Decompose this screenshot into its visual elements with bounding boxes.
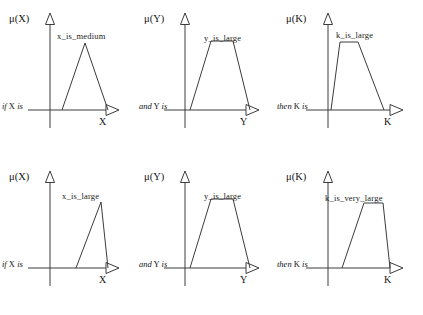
- panel-rule-1-antecedent-x: μ(X) X x_is_medium if X is: [0, 0, 141, 155]
- connective-var: X: [9, 259, 15, 269]
- connective-post: is: [302, 101, 308, 111]
- rule-connective: and Y is: [139, 101, 167, 111]
- rule-connective: and Y is: [139, 259, 167, 269]
- rule-connective: if X is: [2, 259, 23, 269]
- k-axis-name: K: [384, 116, 391, 127]
- rule-connective: then K is: [277, 101, 308, 111]
- connective-post: is: [162, 101, 168, 111]
- membership-set-label: x_is_medium: [57, 31, 105, 41]
- connective-var: Y: [154, 259, 160, 269]
- membership-set-label: k_is_large: [336, 30, 373, 40]
- connective-post: is: [17, 259, 23, 269]
- connective-pre: then: [277, 259, 292, 269]
- connective-post: is: [162, 259, 168, 269]
- connective-pre: and: [139, 259, 152, 269]
- panel-rule-1-antecedent-y: μ(Y) Y y_is_large and Y is: [140, 0, 281, 155]
- x-axis-name: X: [99, 274, 106, 285]
- y-axis-name: Y: [240, 116, 247, 127]
- k-axis-name: K: [384, 274, 391, 285]
- connective-var: X: [9, 101, 15, 111]
- mu-axis-label: μ(Y): [144, 13, 164, 24]
- rule-connective: then K is: [277, 259, 308, 269]
- x-axis-name: X: [99, 116, 106, 127]
- membership-set-label: y_is_large: [204, 191, 241, 201]
- membership-set-label: x_is_large: [62, 191, 99, 201]
- mu-axis-label: μ(K): [286, 171, 306, 182]
- panel-rule-2-consequent-k: μ(K) K k_is_very_large then K is: [280, 158, 421, 313]
- connective-pre: if: [2, 259, 7, 269]
- connective-var: Y: [154, 101, 160, 111]
- panel-rule-2-antecedent-y: μ(Y) Y y_is_large and Y is: [140, 158, 281, 313]
- mu-axis-label: μ(X): [9, 13, 29, 24]
- panel-rule-1-consequent-k: μ(K) K k_is_large then K is: [280, 0, 421, 155]
- y-axis-name: Y: [240, 274, 247, 285]
- panel-rule-2-antecedent-x: μ(X) X x_is_large if X is: [0, 158, 141, 313]
- connective-pre: if: [2, 101, 7, 111]
- membership-set-label: y_is_large: [204, 33, 241, 43]
- mu-axis-label: μ(K): [286, 13, 306, 24]
- rule-connective: if X is: [2, 101, 23, 111]
- connective-post: is: [302, 259, 308, 269]
- connective-post: is: [17, 101, 23, 111]
- connective-pre: then: [277, 101, 292, 111]
- membership-set-label: k_is_very_large: [325, 193, 383, 203]
- connective-var: K: [294, 101, 300, 111]
- connective-var: K: [294, 259, 300, 269]
- connective-pre: and: [139, 101, 152, 111]
- rule-row-1: μ(X) X x_is_medium if X is μ(Y) Y y_is_l…: [0, 0, 423, 155]
- mu-axis-label: μ(Y): [144, 171, 164, 182]
- mu-axis-label: μ(X): [9, 171, 29, 182]
- rule-row-2: μ(X) X x_is_large if X is μ(Y) Y y_is_la…: [0, 158, 423, 313]
- fuzzy-rule-diagram: μ(X) X x_is_medium if X is μ(Y) Y y_is_l…: [0, 0, 423, 315]
